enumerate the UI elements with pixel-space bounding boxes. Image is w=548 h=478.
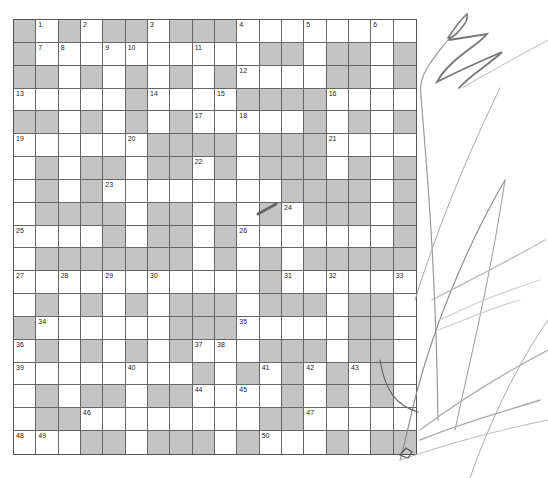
answer-cell[interactable]: [193, 203, 215, 226]
answer-cell[interactable]: [371, 66, 393, 89]
answer-cell[interactable]: 43: [349, 363, 371, 386]
answer-cell[interactable]: [193, 248, 215, 271]
answer-cell[interactable]: [148, 317, 170, 340]
answer-cell[interactable]: [327, 408, 349, 431]
answer-cell[interactable]: [371, 271, 393, 294]
answer-cell[interactable]: [126, 157, 148, 180]
answer-cell[interactable]: [59, 180, 81, 203]
answer-cell[interactable]: [59, 157, 81, 180]
answer-cell[interactable]: [14, 294, 36, 317]
answer-cell[interactable]: [282, 431, 304, 454]
answer-cell[interactable]: 30: [148, 271, 170, 294]
answer-cell[interactable]: [394, 340, 416, 363]
answer-cell[interactable]: [215, 111, 237, 134]
answer-cell[interactable]: 31: [282, 271, 304, 294]
answer-cell[interactable]: [327, 294, 349, 317]
answer-cell[interactable]: [371, 157, 393, 180]
answer-cell[interactable]: 15: [215, 89, 237, 112]
answer-cell[interactable]: 25: [14, 226, 36, 249]
answer-cell[interactable]: 26: [237, 226, 259, 249]
answer-cell[interactable]: [81, 134, 103, 157]
answer-cell[interactable]: 36: [14, 340, 36, 363]
answer-cell[interactable]: 3: [148, 20, 170, 43]
answer-cell[interactable]: [59, 111, 81, 134]
answer-cell[interactable]: [59, 340, 81, 363]
answer-cell[interactable]: [349, 385, 371, 408]
answer-cell[interactable]: [103, 363, 125, 386]
answer-cell[interactable]: 1: [36, 20, 58, 43]
answer-cell[interactable]: 35: [237, 317, 259, 340]
answer-cell[interactable]: [148, 66, 170, 89]
answer-cell[interactable]: [304, 317, 326, 340]
answer-cell[interactable]: [282, 317, 304, 340]
answer-cell[interactable]: [59, 385, 81, 408]
answer-cell[interactable]: [394, 408, 416, 431]
answer-cell[interactable]: 19: [14, 134, 36, 157]
answer-cell[interactable]: [371, 89, 393, 112]
answer-cell[interactable]: 33: [394, 271, 416, 294]
answer-cell[interactable]: [81, 363, 103, 386]
answer-cell[interactable]: [282, 111, 304, 134]
answer-cell[interactable]: 47: [304, 408, 326, 431]
answer-cell[interactable]: [304, 66, 326, 89]
answer-cell[interactable]: [14, 385, 36, 408]
answer-cell[interactable]: [126, 317, 148, 340]
answer-cell[interactable]: [371, 43, 393, 66]
answer-cell[interactable]: 44: [193, 385, 215, 408]
answer-cell[interactable]: [304, 385, 326, 408]
answer-cell[interactable]: [148, 294, 170, 317]
answer-cell[interactable]: [170, 271, 192, 294]
answer-cell[interactable]: [81, 317, 103, 340]
answer-cell[interactable]: [215, 271, 237, 294]
answer-cell[interactable]: [371, 203, 393, 226]
answer-cell[interactable]: [126, 180, 148, 203]
answer-cell[interactable]: [126, 271, 148, 294]
answer-cell[interactable]: 7: [36, 43, 58, 66]
answer-cell[interactable]: [327, 20, 349, 43]
answer-cell[interactable]: [36, 271, 58, 294]
answer-cell[interactable]: [349, 89, 371, 112]
answer-cell[interactable]: [260, 66, 282, 89]
answer-cell[interactable]: [260, 20, 282, 43]
answer-cell[interactable]: [170, 180, 192, 203]
answer-cell[interactable]: [170, 363, 192, 386]
answer-cell[interactable]: [148, 363, 170, 386]
answer-cell[interactable]: [371, 226, 393, 249]
answer-cell[interactable]: [349, 134, 371, 157]
answer-cell[interactable]: 32: [327, 271, 349, 294]
answer-cell[interactable]: [282, 20, 304, 43]
answer-cell[interactable]: [81, 271, 103, 294]
answer-cell[interactable]: [237, 340, 259, 363]
answer-cell[interactable]: 6: [371, 20, 393, 43]
answer-cell[interactable]: [327, 340, 349, 363]
answer-cell[interactable]: [371, 180, 393, 203]
answer-cell[interactable]: [14, 157, 36, 180]
answer-cell[interactable]: [394, 317, 416, 340]
answer-cell[interactable]: 28: [59, 271, 81, 294]
answer-cell[interactable]: [394, 294, 416, 317]
answer-cell[interactable]: 29: [103, 271, 125, 294]
answer-cell[interactable]: [215, 43, 237, 66]
answer-cell[interactable]: [237, 248, 259, 271]
answer-cell[interactable]: [193, 271, 215, 294]
answer-cell[interactable]: [304, 226, 326, 249]
answer-cell[interactable]: [215, 385, 237, 408]
answer-cell[interactable]: [103, 294, 125, 317]
answer-cell[interactable]: 21: [327, 134, 349, 157]
answer-cell[interactable]: [237, 408, 259, 431]
answer-cell[interactable]: 23: [103, 180, 125, 203]
answer-cell[interactable]: 38: [215, 340, 237, 363]
answer-cell[interactable]: 27: [14, 271, 36, 294]
answer-cell[interactable]: [349, 408, 371, 431]
answer-cell[interactable]: [170, 89, 192, 112]
answer-cell[interactable]: [126, 203, 148, 226]
answer-cell[interactable]: [260, 226, 282, 249]
answer-cell[interactable]: [394, 363, 416, 386]
answer-cell[interactable]: 14: [148, 89, 170, 112]
answer-cell[interactable]: [36, 226, 58, 249]
answer-cell[interactable]: [394, 385, 416, 408]
answer-cell[interactable]: [327, 157, 349, 180]
answer-cell[interactable]: 24: [282, 203, 304, 226]
answer-cell[interactable]: [148, 408, 170, 431]
answer-cell[interactable]: 39: [14, 363, 36, 386]
